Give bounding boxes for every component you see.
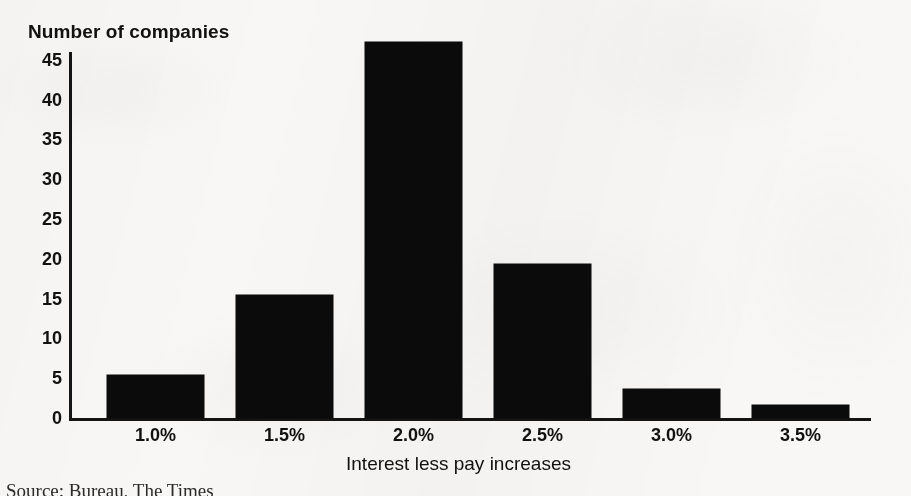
x-tick-label: 2.0% xyxy=(349,425,478,446)
y-tick-label: 30 xyxy=(16,170,62,188)
bar[interactable] xyxy=(623,389,720,418)
x-axis-title: Interest less pay increases xyxy=(0,453,911,475)
y-tick-label: 10 xyxy=(16,329,62,347)
bar-slot xyxy=(349,40,478,418)
y-tick-label: 15 xyxy=(16,290,62,308)
y-tick-label: 40 xyxy=(16,91,62,109)
bar-slot xyxy=(607,40,736,418)
x-tick-label: 3.5% xyxy=(736,425,865,446)
plot-area xyxy=(69,40,871,418)
x-tick-label: 1.0% xyxy=(91,425,220,446)
source-caption: Source: Bureau, The Times xyxy=(6,480,214,496)
bar[interactable] xyxy=(365,42,462,418)
y-tick-label: 0 xyxy=(16,409,62,427)
y-tick-label: 5 xyxy=(16,369,62,387)
y-axis-tick-labels: 454035302520151050 xyxy=(8,40,62,418)
x-tick-label: 3.0% xyxy=(607,425,736,446)
y-tick-label: 20 xyxy=(16,250,62,268)
bar-series xyxy=(69,40,871,418)
bar[interactable] xyxy=(494,264,591,418)
bar-slot xyxy=(736,40,865,418)
x-tick-label: 2.5% xyxy=(478,425,607,446)
x-axis-tick-labels: 1.0%1.5%2.0%2.5%3.0%3.5% xyxy=(69,425,871,451)
bar[interactable] xyxy=(236,295,333,418)
x-axis-line xyxy=(69,418,871,421)
bar[interactable] xyxy=(107,375,204,418)
chart-figure: Number of companies 454035302520151050 1… xyxy=(0,0,911,496)
y-tick-label: 45 xyxy=(16,51,62,69)
bar[interactable] xyxy=(752,405,849,418)
y-tick-label: 25 xyxy=(16,210,62,228)
x-tick-label: 1.5% xyxy=(220,425,349,446)
bar-slot xyxy=(220,40,349,418)
bar-slot xyxy=(91,40,220,418)
bar-slot xyxy=(478,40,607,418)
y-tick-label: 35 xyxy=(16,130,62,148)
